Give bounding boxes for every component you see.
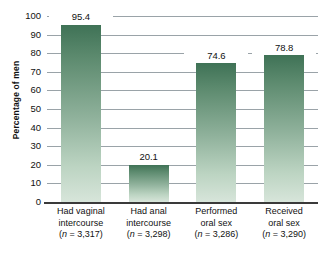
x-axis-category-labels: Had vaginalintercourse(n = 3,317)Had ana… bbox=[47, 206, 318, 256]
bar-slot: 95.4 bbox=[61, 16, 101, 202]
y-tick-label-80: 80 bbox=[16, 48, 41, 58]
y-tick-label-10: 10 bbox=[16, 179, 41, 189]
category-line-2: oral sex bbox=[241, 218, 325, 230]
plot-area: 95.420.174.678.8 bbox=[47, 16, 318, 202]
x-category-label: Receivedoral sex(n = 3,290) bbox=[241, 206, 325, 241]
y-tick-label-20: 20 bbox=[16, 160, 41, 170]
bar-slot: 20.1 bbox=[129, 16, 169, 202]
bar-value-label: 78.8 bbox=[252, 42, 316, 55]
y-tick-label-60: 60 bbox=[16, 86, 41, 96]
bar-value-label: 20.1 bbox=[117, 151, 181, 164]
bars-layer: 95.420.174.678.8 bbox=[47, 16, 318, 202]
category-line-1: Received bbox=[241, 206, 325, 218]
bar[interactable] bbox=[264, 55, 304, 202]
bar[interactable] bbox=[196, 63, 236, 202]
y-tick-label-50: 50 bbox=[16, 104, 41, 114]
bar-slot: 78.8 bbox=[264, 16, 304, 202]
bar-value-label: 74.6 bbox=[184, 50, 248, 63]
y-tick-label-40: 40 bbox=[16, 123, 41, 133]
bar[interactable] bbox=[61, 25, 101, 202]
bar[interactable] bbox=[129, 165, 169, 202]
bar-slot: 74.6 bbox=[196, 16, 236, 202]
axis-baseline bbox=[44, 202, 318, 204]
y-tick-label-70: 70 bbox=[16, 67, 41, 77]
y-tick-label-30: 30 bbox=[16, 141, 41, 151]
y-tick-label-100: 100 bbox=[16, 11, 41, 21]
bar-value-label: 95.4 bbox=[49, 11, 113, 24]
y-tick-label-90: 90 bbox=[16, 30, 41, 40]
bar-chart: Percentage of men 95.420.174.678.8 10090… bbox=[0, 0, 325, 258]
category-sample-size: (n = 3,290) bbox=[241, 229, 325, 241]
